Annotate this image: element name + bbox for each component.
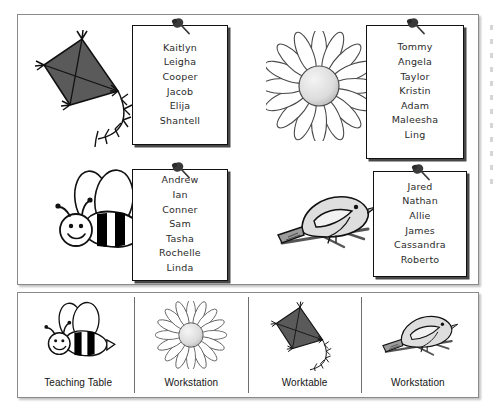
student-name: Conner <box>162 203 197 218</box>
stations-row: Teaching Table <box>22 297 474 393</box>
kite-icon <box>265 301 345 375</box>
student-name: Jared <box>407 180 432 195</box>
student-name: Angela <box>398 55 432 70</box>
group-sunflower: Tommy Angela Taylor Kristin Adam Maleesh… <box>258 21 473 163</box>
student-name: Cooper <box>162 70 197 85</box>
pushpin-icon <box>403 15 427 37</box>
student-name: Linda <box>167 261 194 276</box>
station-label: Teaching Table <box>44 377 112 388</box>
student-name: Sam <box>169 217 191 232</box>
group-bee: Andrew Ian Conner Sam Tasha Rochelle Lin… <box>28 161 238 281</box>
name-card-bee: Andrew Ian Conner Sam Tasha Rochelle Lin… <box>132 169 228 281</box>
student-name: Rochelle <box>159 246 201 261</box>
student-name: James <box>405 224 435 239</box>
bird-icon <box>376 309 460 371</box>
group-bird: Jared Nathan Allie James Cassandra Rober… <box>258 167 473 279</box>
bird-icon <box>272 187 376 267</box>
student-name: Kristin <box>399 84 431 99</box>
station-workstation-bird[interactable]: Workstation <box>362 297 474 393</box>
stations-panel: Teaching Table <box>17 292 479 398</box>
student-name: Leigha <box>164 55 197 70</box>
student-name: Ian <box>172 188 187 203</box>
station-workstation-sunflower[interactable]: Workstation <box>135 297 248 393</box>
student-name: Shantell <box>160 114 200 129</box>
group-kite: Kaitlyn Leigha Cooper Jacob Elija Shante… <box>28 21 238 149</box>
student-name: Adam <box>401 99 429 114</box>
station-label: Worktable <box>282 377 328 388</box>
pushpin-icon <box>168 15 192 37</box>
student-name: Ling <box>405 128 426 143</box>
student-name: Taylor <box>400 70 429 85</box>
student-name: Elija <box>170 99 191 114</box>
student-name: Andrew <box>161 173 198 188</box>
student-name: Nathan <box>402 194 438 209</box>
student-name: Kaitlyn <box>163 41 197 56</box>
station-label: Workstation <box>165 377 219 388</box>
student-name: Allie <box>409 209 430 224</box>
station-label: Workstation <box>391 377 445 388</box>
sunflower-icon <box>266 31 372 145</box>
student-name: Tasha <box>166 232 194 247</box>
student-name: Jacob <box>167 85 194 100</box>
station-teaching-table[interactable]: Teaching Table <box>22 297 135 393</box>
student-name: Roberto <box>401 253 440 268</box>
chart-page: Kaitlyn Leigha Cooper Jacob Elija Shante… <box>0 0 499 411</box>
kite-icon <box>34 29 146 151</box>
student-name: Maleesha <box>392 113 439 128</box>
station-worktable-kite[interactable]: Worktable <box>249 297 362 393</box>
name-card-bird: Jared Nathan Allie James Cassandra Rober… <box>373 171 467 277</box>
student-name: Tommy <box>397 40 432 55</box>
clipped-margin-marks <box>488 16 499 216</box>
bee-icon <box>38 301 118 367</box>
student-name: Cassandra <box>394 238 446 253</box>
name-card-sunflower: Tommy Angela Taylor Kristin Adam Maleesh… <box>366 25 464 159</box>
student-groups-panel: Kaitlyn Leigha Cooper Jacob Elija Shante… <box>17 14 479 285</box>
sunflower-icon <box>155 301 227 373</box>
name-card-kite: Kaitlyn Leigha Cooper Jacob Elija Shante… <box>132 25 228 145</box>
